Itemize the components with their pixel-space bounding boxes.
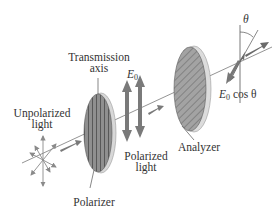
theta-symbol: θ [243, 13, 249, 25]
unpolarized-light-arrows [30, 136, 56, 186]
output-e-symbol: E [219, 88, 226, 100]
polarizer-text: Polarizer [73, 196, 115, 208]
polarization-diagram: Transmission axis E0 Unpolarized light P… [0, 0, 280, 213]
light-beam [22, 47, 272, 163]
transmitted-amplitude-arrow-lower [226, 60, 240, 84]
unpolarized-text-2: light [10, 119, 74, 130]
analyzer-label: Analyzer [174, 142, 224, 153]
e0-subscript: 0 [134, 73, 138, 82]
theta-label: θ [243, 14, 249, 25]
analyzer-disk [174, 46, 211, 140]
transmitted-beam-arrow [245, 42, 269, 57]
incident-beam-arrow [60, 140, 82, 152]
transmission-axis-label: Transmission axis [66, 52, 132, 74]
e0-label: E0 [127, 69, 138, 83]
e0-symbol: E [127, 68, 134, 80]
polarized-light-arrows [122, 75, 145, 142]
polarizer-disk [84, 78, 116, 188]
polarized-light-label: Polarized light [118, 151, 174, 173]
output-amplitude-label: E0 cos θ [219, 89, 257, 103]
transmission-axis-text-2: axis [66, 63, 132, 74]
polarizer-label: Polarizer [68, 197, 120, 208]
analyzer-text: Analyzer [178, 141, 220, 153]
polarized-beam-arrow [148, 105, 164, 115]
unpolarized-light-label: Unpolarized light [10, 108, 74, 130]
polarized-text-2: light [118, 162, 174, 173]
output-cos-theta: cos θ [230, 88, 257, 100]
